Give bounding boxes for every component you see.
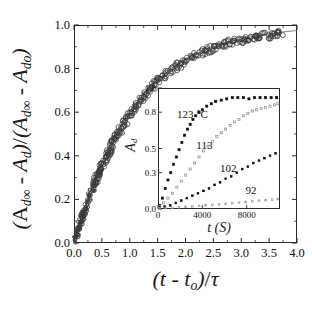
main-y-tick-label: 0.8 — [38, 61, 70, 76]
main-x-tick-label: 0.5 — [94, 246, 110, 261]
main-y-tick-labels: 0.00.20.40.60.81.0 — [38, 25, 70, 243]
main-y-tick-label: 0.4 — [38, 148, 70, 163]
inset-series-label-92: 92 — [246, 184, 257, 196]
main-x-tick-label: 0.0 — [66, 246, 82, 261]
main-y-tick-label: 0.0 — [38, 236, 70, 251]
main-x-tick-label: 3.5 — [261, 246, 277, 261]
inset-x-axis-title: t (S) — [158, 220, 280, 236]
main-y-tick-label: 1.0 — [38, 18, 70, 33]
main-x-tick-labels: 0.00.51.01.52.02.53.03.54.0 — [74, 246, 297, 262]
main-x-tick-label: 4.0 — [289, 246, 305, 261]
main-x-axis-title: (t - to)/τ — [74, 266, 297, 294]
main-y-tick-label: 0.2 — [38, 192, 70, 207]
main-y-tick-label: 0.6 — [38, 105, 70, 120]
inset-series-label-102: 102 — [220, 162, 237, 174]
inset-y-axis-title: Ad — [123, 127, 139, 163]
inset-x-tick-label: 8000 — [238, 210, 256, 220]
main-x-tick-label: 2.0 — [178, 246, 194, 261]
inset-x-tick-label: 4000 — [193, 210, 211, 220]
inset-y-tick-label: 1.0 — [136, 83, 156, 93]
inset-y-tick-label: 0.0 — [136, 204, 156, 214]
main-x-tick-label: 2.5 — [206, 246, 222, 261]
inset-y-tick-label: 0.8 — [136, 107, 156, 117]
inset-y-tick-label: 0.3 — [136, 168, 156, 178]
main-x-tick-label: 1.0 — [122, 246, 138, 261]
inset-x-tick-label: 0 — [156, 210, 161, 220]
figure-canvas: 0.00.20.40.60.81.0 0.00.51.01.52.02.53.0… — [0, 0, 312, 311]
inset-series-label-113: 113 — [196, 139, 212, 151]
main-x-tick-label: 3.0 — [233, 246, 249, 261]
main-x-tick-label: 1.5 — [150, 246, 166, 261]
inset-series-label-123c: 123 °C — [177, 108, 208, 120]
main-y-axis-title: (Ad∞ - Ad)/(Ad∞ - Ado) — [7, 24, 35, 254]
inset-plot-frame — [158, 88, 280, 209]
